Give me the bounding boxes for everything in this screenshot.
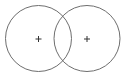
venn-diagram (0, 0, 121, 75)
right-center-marker (84, 36, 90, 42)
left-center-marker (36, 36, 42, 42)
